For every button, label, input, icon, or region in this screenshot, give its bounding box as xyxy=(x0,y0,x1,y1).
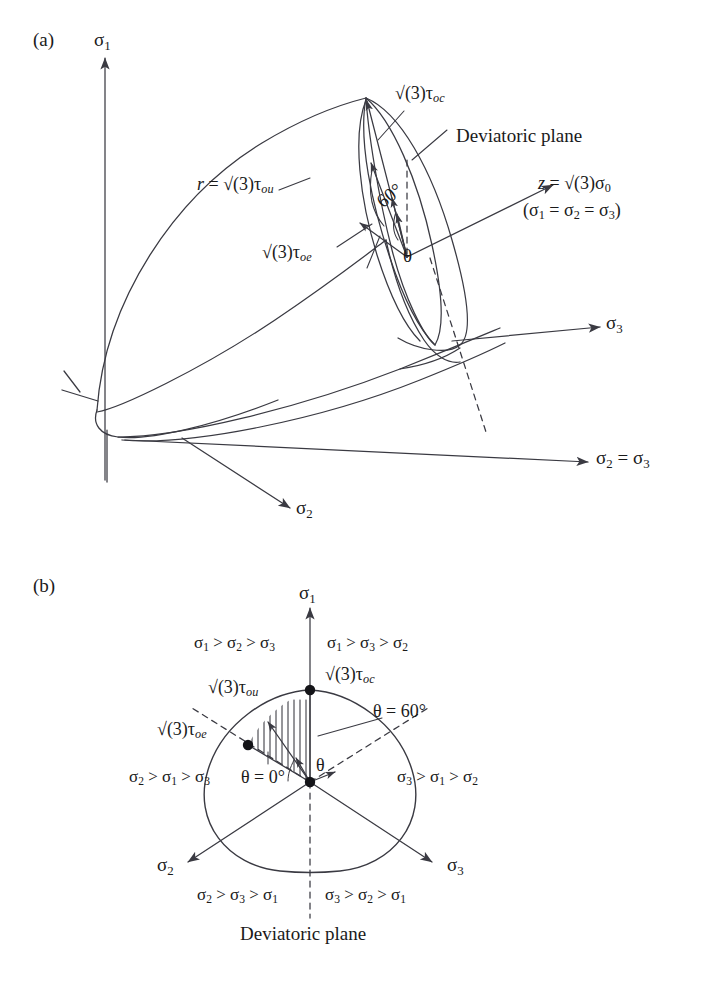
panel-b-sector-top-left: σ1 > σ2 > σ3 xyxy=(194,634,275,654)
panel-a-deviatoric-plane-label: Deviatoric plane xyxy=(456,126,582,145)
figure-container: (a) σ1 σ3 σ2 σ2 = σ3 r = √(3)τou √(3)τoc… xyxy=(0,0,706,991)
panel-a-sigma2-label: σ2 xyxy=(296,498,313,521)
panel-a-cone-surface xyxy=(96,98,505,441)
figure-vector-graphics xyxy=(0,0,706,991)
panel-a-tag: (a) xyxy=(33,30,54,49)
panel-b-sigma2-label: σ2 xyxy=(157,855,174,878)
panel-b-tau-oe-label: √(3)τoe xyxy=(157,720,207,741)
panel-b-sector-mid-right: σ3 > σ1 > σ2 xyxy=(397,768,478,788)
panel-a-dashed-lines xyxy=(407,160,486,432)
panel-b-sector-top-right: σ1 > σ3 > σ2 xyxy=(327,634,408,654)
panel-b-tau-oc-label: √(3)τoc xyxy=(325,665,375,686)
panel-b-sigma3-axis xyxy=(310,782,432,862)
panel-a-z-axis-sublabel: (σ1 = σ2 = σ3) xyxy=(523,201,621,222)
cutoff-caption-ghost xyxy=(60,972,64,989)
panel-a-sigma2-eq-sigma3-label: σ2 = σ3 xyxy=(596,448,650,471)
panel-a-sigma2eq3-axis xyxy=(125,440,588,462)
panel-a-tau-oe-label: √(3)τoe xyxy=(262,243,312,264)
panel-b-theta-60-label: θ = 60° xyxy=(373,702,426,720)
panel-b-sector-bottom-right: σ3 > σ2 > σ1 xyxy=(325,886,406,906)
panel-b-theta-label: θ xyxy=(316,756,325,774)
panel-b-sigma3-label: σ3 xyxy=(447,855,464,878)
panel-a-radius-vectors xyxy=(360,101,407,257)
panel-a-z-axis-label: z = √(3)σ0 xyxy=(538,174,611,195)
panel-b-sigma1-label: σ1 xyxy=(299,583,316,606)
panel-b-sector-mid-left: σ2 > σ1 > σ3 xyxy=(129,768,210,788)
panel-a-theta-label: θ xyxy=(403,246,412,265)
panel-b-deviatoric-plane-label: Deviatoric plane xyxy=(240,924,366,943)
panel-b-theta-0-label: θ = 0° xyxy=(241,768,285,786)
panel-a-tau-oc-label: √(3)τoc xyxy=(395,84,445,105)
panel-a-sigma1-label: σ1 xyxy=(94,30,111,53)
panel-b-tau-ou-label: √(3)τou xyxy=(208,678,258,699)
panel-b-sector-bottom-left: σ2 > σ3 > σ1 xyxy=(197,886,278,906)
panel-a-sigma3-axis xyxy=(452,327,600,341)
panel-a-sigma3-label: σ3 xyxy=(606,313,623,336)
panel-b-sigma2-axis xyxy=(188,782,310,862)
panel-a-sigma2-axis xyxy=(182,438,290,508)
panel-a-r-tau-ou-label: r = √(3)τou xyxy=(197,175,274,196)
panel-b-tag: (b) xyxy=(33,576,55,595)
panel-a-origin-ticks xyxy=(62,371,107,482)
